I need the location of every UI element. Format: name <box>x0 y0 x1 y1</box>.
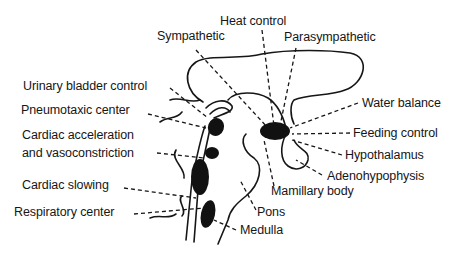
leader-sympathetic <box>196 50 268 128</box>
respiratory-blob <box>198 199 218 229</box>
label-respiratory-center: Respiratory center <box>14 205 114 219</box>
label-pons: Pons <box>257 205 285 219</box>
leader-water-balance <box>290 103 358 128</box>
cerebrum-outline <box>188 51 364 125</box>
label-medulla: Medulla <box>240 223 283 237</box>
pituitary-outline <box>282 134 308 169</box>
label-vasoconstriction: and vasoconstriction <box>22 146 134 160</box>
cardiac-acceleration-blob <box>205 147 219 159</box>
label-heat-control: Heat control <box>220 14 286 28</box>
label-hypothalamus: Hypothalamus <box>345 148 424 162</box>
label-water-balance: Water balance <box>362 96 441 110</box>
cardiac-slowing-blob <box>191 159 209 195</box>
leader-adenohypophysis <box>296 160 322 175</box>
leader-pons <box>240 180 256 210</box>
leader-parasympathetic <box>280 48 296 126</box>
leader-feeding-control <box>292 133 350 134</box>
leader-heat-control <box>262 30 274 126</box>
leader-cardiac-slowing <box>124 188 196 198</box>
label-cardiac-slowing: Cardiac slowing <box>22 178 109 192</box>
label-cardiac-acceleration: Cardiac acceleration <box>22 128 134 142</box>
label-sympathetic: Sympathetic <box>157 29 225 43</box>
brain-control-centers-diagram: Heat control Sympathetic Parasympathetic… <box>0 0 471 254</box>
leader-urinary-bladder <box>170 88 208 118</box>
leader-respiratory <box>134 208 204 214</box>
label-mamillary-body: Mamillary body <box>271 184 354 198</box>
label-feeding-control: Feeding control <box>353 126 438 140</box>
label-parasympathetic: Parasympathetic <box>284 30 376 44</box>
label-urinary-bladder-control: Urinary bladder control <box>23 79 147 93</box>
leader-mamillary-body <box>264 140 274 186</box>
label-adenohypophysis: Adenohypophysis <box>327 169 424 183</box>
label-pneumotaxic-center: Pneumotaxic center <box>21 103 130 117</box>
